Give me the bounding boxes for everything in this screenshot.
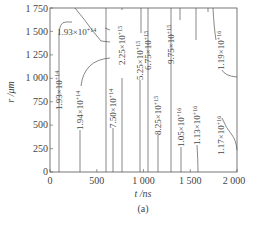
y-tick-labels: 0 250 500 750 1 000 1 250 1 500 1 750 <box>26 3 49 177</box>
contour-label: 1.94×10+14 <box>75 91 85 130</box>
caption: (a) <box>137 203 148 215</box>
x-tick: 0 <box>48 175 53 186</box>
contour-label: 1.17×10+16 <box>216 116 226 155</box>
contour-chart: 0 250 500 750 1 000 1 250 1 500 1 750 0 … <box>0 0 255 225</box>
contour-label: 1.05×10+16 <box>176 108 186 147</box>
contour-label: 1.13×10+16 <box>192 106 202 145</box>
x-axis-label: t /ns <box>135 188 152 199</box>
contour-label: 9.75×10+15 <box>166 25 176 64</box>
contour-label: 6.75×10+15 <box>143 31 153 70</box>
x-tick: 500 <box>89 175 104 186</box>
contour-label: 2.25×10+15 <box>117 26 127 65</box>
x-tick: 2 000 <box>223 175 246 186</box>
contour-label: 1.93×10+14 <box>54 71 64 110</box>
y-tick: 1 000 <box>26 72 49 83</box>
y-tick: 1 750 <box>26 3 49 14</box>
x-tick: 1 500 <box>179 175 202 186</box>
y-tick: 500 <box>33 119 48 130</box>
x-tick-labels: 0 500 1 000 1 500 2 000 <box>48 175 246 186</box>
y-tick: 1 250 <box>26 49 49 60</box>
contour-label: 8.25×10+15 <box>153 96 163 135</box>
y-axis <box>50 8 53 172</box>
contour-label: 1.19×10+16 <box>216 31 226 70</box>
contour-label: 1.93×10+14 <box>57 27 96 37</box>
x-axis <box>50 169 237 172</box>
y-axis-label: r /μm <box>5 81 16 102</box>
y-tick: 1 500 <box>26 26 49 37</box>
y-tick: 750 <box>33 96 48 107</box>
x-tick: 1 000 <box>132 175 155 186</box>
y-tick: 250 <box>33 143 48 154</box>
contour-label: 7.50×10+14 <box>108 89 118 128</box>
